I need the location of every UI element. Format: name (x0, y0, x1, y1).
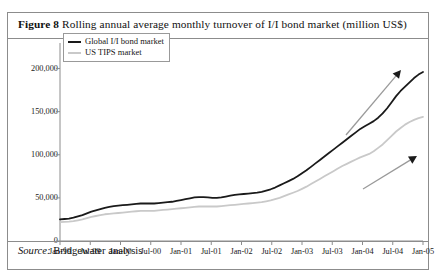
growth-arrow-tips-shaft (363, 160, 410, 189)
legend-label-tips: US TIPS market (85, 47, 142, 58)
growth-arrow-tips-head (408, 156, 417, 164)
figure-label: Figure 8 (18, 18, 59, 30)
x-axis-tick-label: Jan-05 (403, 247, 437, 257)
legend-swatch-global-line (68, 41, 81, 43)
legend-swatch-tips-line (68, 52, 81, 54)
legend-item-tips: US TIPS market (68, 47, 164, 58)
legend-label-global: Global I/I bond market (85, 36, 164, 47)
source-value: Bridgewater analysis (53, 245, 142, 256)
series-line-global-i-i-bond-market (60, 72, 423, 219)
figure-frame: Figure 8 Rolling annual average monthly … (7, 12, 429, 270)
figure-caption-text: Rolling annual average monthly turnover … (62, 18, 407, 30)
source-note: Source: Bridgewater analysis (18, 245, 142, 256)
source-divider (8, 241, 428, 242)
chart-plot-area (8, 39, 428, 245)
legend-item-global: Global I/I bond market (68, 36, 164, 47)
chart-legend: Global I/I bond market US TIPS market (63, 33, 170, 62)
chart-svg (8, 39, 428, 245)
source-label: Source: (18, 245, 51, 256)
